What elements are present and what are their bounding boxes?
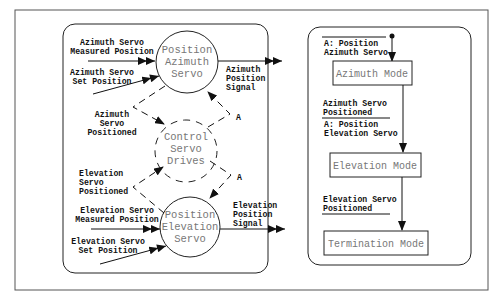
node-label: Elevation — [162, 221, 219, 233]
flow-label: Position — [233, 210, 272, 219]
flow-azimuth-measured-position: Azimuth Servo Measured Position — [70, 38, 155, 61]
flow-label: Elevation Servo — [71, 237, 145, 246]
flow-label: Elevation Servo — [80, 206, 154, 215]
flow-azimuth-servo-positioned: Azimuth Servo Positioned — [87, 86, 165, 137]
flow-label: Azimuth Servo — [80, 38, 144, 47]
flow-label: Positioned — [79, 187, 128, 196]
flow-label: Set Position — [73, 77, 132, 86]
node-label: Control — [164, 131, 208, 143]
transition-action-label: Elevation Servo — [324, 129, 398, 138]
flow-label: Azimuth — [226, 65, 260, 74]
node-label: Drives — [167, 155, 205, 167]
node-position-azimuth-servo: Position Azimuth Servo — [156, 31, 218, 93]
transition-action-label: A: Position — [324, 39, 378, 48]
transition-action-label: Azimuth Servo — [324, 48, 388, 57]
flow-elevation-measured-position: Elevation Servo Measured Position — [75, 206, 160, 229]
state-azimuth-mode: Azimuth Mode — [333, 61, 412, 85]
flow-label: Positioned — [87, 128, 136, 137]
state-elevation-mode: Elevation Mode — [330, 153, 421, 177]
transition-condition-label: Positioned — [323, 204, 372, 213]
flow-activate-azimuth: A — [208, 92, 241, 127]
flow-label: Servo — [100, 119, 125, 128]
node-label: Servo — [171, 68, 203, 80]
flow-label: Elevation — [79, 169, 123, 178]
flow-label: Azimuth — [95, 110, 129, 119]
node-label: Azimuth — [165, 56, 209, 68]
transition-elevation-to-termination: Elevation Servo Positioned — [322, 177, 402, 230]
flow-label: Signal — [226, 83, 256, 92]
node-label: Servo — [174, 233, 206, 245]
transition-initial: A: Position Azimuth Servo — [322, 34, 395, 62]
flow-label: Servo — [79, 178, 104, 187]
flow-label: Set Position — [79, 246, 138, 255]
flow-label: Measured Position — [75, 215, 159, 224]
node-label: Servo — [170, 143, 202, 155]
data-flow-diagram: Position Azimuth Servo Control Servo Dri… — [63, 24, 285, 273]
flow-azimuth-position-signal: Azimuth Position Signal — [218, 61, 282, 92]
state-termination-mode: Termination Mode — [324, 231, 428, 255]
flow-label: Azimuth Servo — [70, 68, 134, 77]
transition-condition-label: Elevation Servo — [323, 195, 397, 204]
node-label: Position — [162, 44, 212, 56]
transition-action-label: A: Position — [324, 120, 378, 129]
flow-label: Measured Position — [70, 47, 154, 56]
transition-azimuth-to-elevation: Azimuth Servo Positioned A: Position Ele… — [322, 85, 403, 152]
flow-azimuth-set-position: Azimuth Servo Set Position — [70, 68, 159, 94]
flow-elevation-position-signal: Elevation Position Signal — [220, 201, 285, 229]
state-label: Elevation Mode — [333, 161, 417, 172]
flow-activate-elevation: A — [210, 161, 242, 198]
node-position-elevation-servo: Position Elevation Servo — [160, 197, 220, 257]
diagram-figure: Position Azimuth Servo Control Servo Dri… — [0, 0, 499, 302]
flow-elevation-set-position: Elevation Servo Set Position — [71, 237, 166, 264]
node-control-servo-drives: Control Servo Drives — [155, 120, 217, 182]
flow-label: Elevation — [233, 201, 277, 210]
node-label: Position — [165, 209, 215, 221]
state-label: Termination Mode — [328, 239, 424, 250]
transition-condition-label: Azimuth Servo — [323, 99, 387, 108]
flow-label: Position — [226, 74, 265, 83]
state-label: Azimuth Mode — [336, 69, 408, 80]
flow-label: A — [237, 173, 242, 182]
flow-label: Signal — [233, 219, 263, 228]
state-transition-diagram: A: Position Azimuth Servo Azimuth Mode A… — [308, 27, 471, 265]
transition-condition-label: Positioned — [323, 108, 372, 117]
flow-label: A — [236, 113, 241, 122]
